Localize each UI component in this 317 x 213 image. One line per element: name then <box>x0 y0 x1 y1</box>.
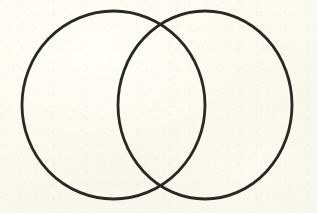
circle-group <box>22 11 292 199</box>
figure-canvas: Two overlapping circles Line drawing of … <box>0 0 317 213</box>
left-circle <box>22 11 205 199</box>
overlapping-circles-drawing <box>0 0 317 213</box>
lower-intersection-point <box>162 186 164 188</box>
upper-intersection-point <box>162 21 164 23</box>
